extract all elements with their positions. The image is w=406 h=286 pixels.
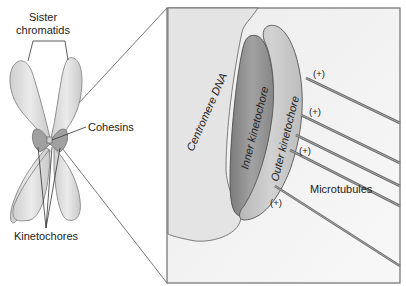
chromatid-arm-upper-right	[51, 58, 82, 140]
cohesin-marker	[47, 137, 52, 143]
label-sister-chromatids-1: Sister	[29, 11, 57, 23]
plus-end-label-2: (+)	[309, 106, 321, 117]
plus-end-label-1: (+)	[313, 68, 325, 79]
chromosome	[10, 58, 82, 223]
plus-end-label-4: (+)	[270, 197, 282, 208]
label-kinetochores: Kinetochores	[14, 230, 79, 242]
magnified-view: (+) (+) (+) (+) Centromere DNA Inner kin…	[167, 8, 400, 283]
label-sister-chromatids-2: chromatids	[16, 24, 70, 36]
chromatid-arm-upper-left	[10, 61, 50, 140]
diagram-svg: Sister chromatids Cohesins Kinetochores	[0, 0, 406, 286]
kinetochore-diagram: Sister chromatids Cohesins Kinetochores	[0, 0, 406, 286]
label-microtubules: Microtubules	[310, 183, 373, 195]
plus-end-label-3: (+)	[299, 145, 311, 156]
label-cohesins: Cohesins	[88, 121, 134, 133]
sister-chromatids-leader	[28, 41, 68, 61]
